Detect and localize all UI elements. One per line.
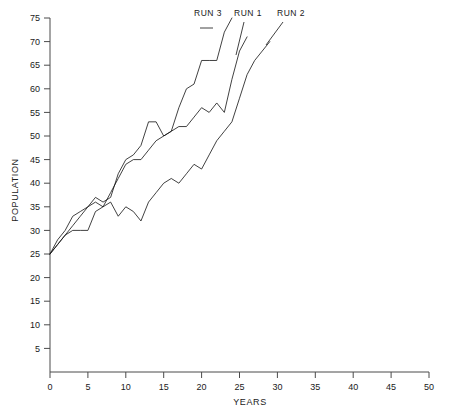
y-tick-label-60: 60: [30, 84, 40, 94]
y-tick-label-35: 35: [30, 202, 40, 212]
y-tick-label-5: 5: [35, 344, 40, 354]
x-tick-label-30: 30: [272, 382, 282, 392]
x-tick-label-45: 45: [386, 382, 396, 392]
chart-canvas: 51015202530354045505560657075 0510152025…: [0, 0, 451, 418]
series-label-run2-group: RUN 2: [266, 8, 305, 45]
run2-leader-line: [266, 22, 283, 45]
x-axis-tick-marks: [50, 372, 429, 378]
y-tick-label-65: 65: [30, 60, 40, 70]
y-axis-title: POPULATION: [10, 158, 20, 221]
y-tick-label-55: 55: [30, 108, 40, 118]
x-tick-label-15: 15: [159, 382, 169, 392]
y-tick-label-70: 70: [30, 37, 40, 47]
population-vs-years-line-chart: 51015202530354045505560657075 0510152025…: [0, 0, 451, 418]
series-label-run2: RUN 2: [277, 8, 305, 18]
x-axis-title: YEARS: [233, 397, 267, 407]
x-tick-label-5: 5: [85, 382, 90, 392]
x-tick-label-40: 40: [348, 382, 358, 392]
y-tick-label-40: 40: [30, 178, 40, 188]
series-line-run-3: [50, 18, 232, 254]
series-label-run3: RUN 3: [194, 8, 222, 18]
y-tick-label-10: 10: [30, 320, 40, 330]
x-axis-tick-labels: 05101520253035404550: [47, 382, 434, 392]
x-tick-label-0: 0: [47, 382, 52, 392]
x-tick-label-25: 25: [234, 382, 244, 392]
y-tick-label-50: 50: [30, 131, 40, 141]
y-tick-label-45: 45: [30, 155, 40, 165]
x-tick-label-50: 50: [424, 382, 434, 392]
x-tick-label-35: 35: [310, 382, 320, 392]
series-label-run3-group: RUN 3: [194, 8, 222, 28]
y-tick-label-20: 20: [30, 273, 40, 283]
x-tick-label-10: 10: [121, 382, 131, 392]
y-tick-label-30: 30: [30, 226, 40, 236]
series-label-run1: RUN 1: [234, 8, 262, 18]
series-label-run1-group: RUN 1: [234, 8, 262, 55]
series-line-run-2: [50, 42, 270, 254]
y-axis-tick-marks: [44, 18, 50, 348]
series-line-run-1: [50, 37, 247, 254]
y-tick-label-15: 15: [30, 296, 40, 306]
y-axis-tick-labels: 51015202530354045505560657075: [30, 13, 40, 353]
series-line-group: [50, 18, 270, 254]
y-tick-label-25: 25: [30, 249, 40, 259]
x-tick-label-20: 20: [197, 382, 207, 392]
y-tick-label-75: 75: [30, 13, 40, 23]
